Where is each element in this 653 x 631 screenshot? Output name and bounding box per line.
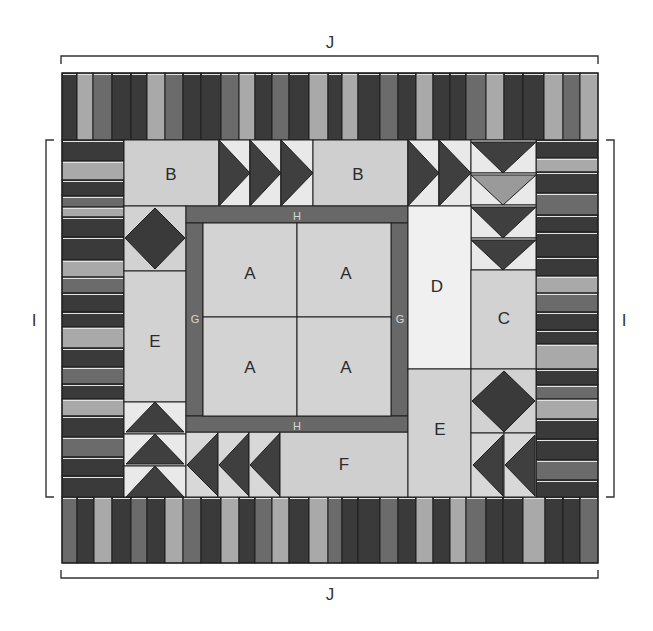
border-stripe xyxy=(544,73,563,140)
diamond-block-right xyxy=(471,369,536,433)
label-e2: E xyxy=(434,420,445,439)
border-bottom-stripes xyxy=(62,497,598,563)
border-top-stripes xyxy=(62,73,598,140)
border-stripe xyxy=(536,140,598,158)
border-stripe xyxy=(536,480,598,497)
label-h1: H xyxy=(293,210,301,222)
border-stripe xyxy=(523,497,545,563)
border-stripe xyxy=(536,312,598,330)
border-stripe xyxy=(563,497,580,563)
border-stripe xyxy=(466,497,486,563)
dimension-label-left: I xyxy=(28,311,40,331)
flying-geese-bottom-center xyxy=(186,432,280,497)
border-stripe xyxy=(62,237,124,260)
border-stripe xyxy=(239,73,255,140)
border-stripe xyxy=(536,172,598,193)
border-stripe xyxy=(416,497,433,563)
border-stripe xyxy=(358,73,380,140)
border-stripe xyxy=(62,476,124,497)
border-stripe xyxy=(62,293,124,312)
flying-geese-bottom-right xyxy=(471,433,536,497)
border-stripe xyxy=(131,497,147,563)
border-stripe xyxy=(536,344,598,369)
label-g1: G xyxy=(191,313,200,325)
border-stripe xyxy=(112,73,131,140)
border-stripe xyxy=(62,140,124,161)
border-stripe xyxy=(450,497,466,563)
border-stripe xyxy=(62,416,124,437)
border-stripe xyxy=(416,73,433,140)
label-e1: E xyxy=(149,332,160,351)
border-stripe xyxy=(62,367,124,384)
border-stripe xyxy=(536,369,598,385)
border-right-stripes xyxy=(536,140,598,497)
border-stripe xyxy=(289,73,309,140)
border-stripe xyxy=(358,497,380,563)
label-d: D xyxy=(431,277,443,296)
label-h2: H xyxy=(293,420,301,432)
border-stripe xyxy=(62,327,124,348)
dimension-bracket-top xyxy=(61,56,598,64)
border-stripe xyxy=(131,73,147,140)
label-a2: A xyxy=(340,264,352,283)
border-stripe xyxy=(147,73,165,140)
border-stripe xyxy=(62,312,124,327)
label-b2: B xyxy=(352,165,363,184)
border-stripe xyxy=(536,293,598,312)
border-stripe xyxy=(536,330,598,344)
label-a1: A xyxy=(244,264,256,283)
border-stripe xyxy=(398,73,416,140)
border-stripe xyxy=(272,497,289,563)
border-stripe xyxy=(380,73,398,140)
dimension-bracket-left xyxy=(46,140,54,497)
border-stripe xyxy=(272,73,289,140)
label-a3: A xyxy=(244,358,256,377)
flying-geese-bottom-left xyxy=(124,402,186,497)
quilt-diagram: B B A A A A D C E E F G G H H J J I I xyxy=(0,0,653,631)
border-stripe xyxy=(62,161,124,180)
border-stripe xyxy=(93,73,112,140)
dimension-bracket-bottom xyxy=(61,570,598,578)
border-stripe xyxy=(433,497,450,563)
dimension-label-right: I xyxy=(618,311,630,331)
border-stripe xyxy=(62,277,124,293)
dimension-bracket-right xyxy=(606,140,614,497)
border-stripe xyxy=(536,257,598,276)
border-stripe xyxy=(62,384,124,399)
border-stripe xyxy=(201,73,221,140)
dimension-label-bottom: J xyxy=(320,585,340,605)
border-stripe xyxy=(450,73,466,140)
border-stripe xyxy=(536,439,598,460)
border-stripe xyxy=(255,497,272,563)
border-stripe xyxy=(239,497,255,563)
border-stripe xyxy=(536,419,598,439)
border-stripe xyxy=(328,497,342,563)
border-stripe xyxy=(545,497,563,563)
border-stripe xyxy=(62,497,77,563)
border-stripe xyxy=(536,460,598,480)
border-stripe xyxy=(486,73,504,140)
border-stripe xyxy=(536,276,598,293)
label-g2: G xyxy=(396,313,405,325)
border-stripe xyxy=(62,217,124,237)
border-left-stripes xyxy=(62,140,124,497)
border-stripe xyxy=(503,497,523,563)
border-stripe xyxy=(183,73,201,140)
border-stripe xyxy=(77,73,93,140)
border-stripe xyxy=(62,73,77,140)
quilt-drawing: B B A A A A D C E E F G G H H xyxy=(0,0,653,631)
border-stripe xyxy=(342,497,358,563)
border-stripe xyxy=(486,497,503,563)
label-f: F xyxy=(339,455,349,474)
border-stripe xyxy=(536,232,598,257)
flying-geese-top-right xyxy=(408,140,471,206)
border-stripe xyxy=(62,457,124,476)
border-stripe xyxy=(342,73,358,140)
border-stripe xyxy=(62,260,124,277)
border-stripe xyxy=(147,497,165,563)
border-stripe xyxy=(580,497,598,563)
border-stripe xyxy=(328,73,342,140)
border-stripe xyxy=(563,73,580,140)
border-stripe xyxy=(165,497,183,563)
border-stripe xyxy=(289,497,309,563)
